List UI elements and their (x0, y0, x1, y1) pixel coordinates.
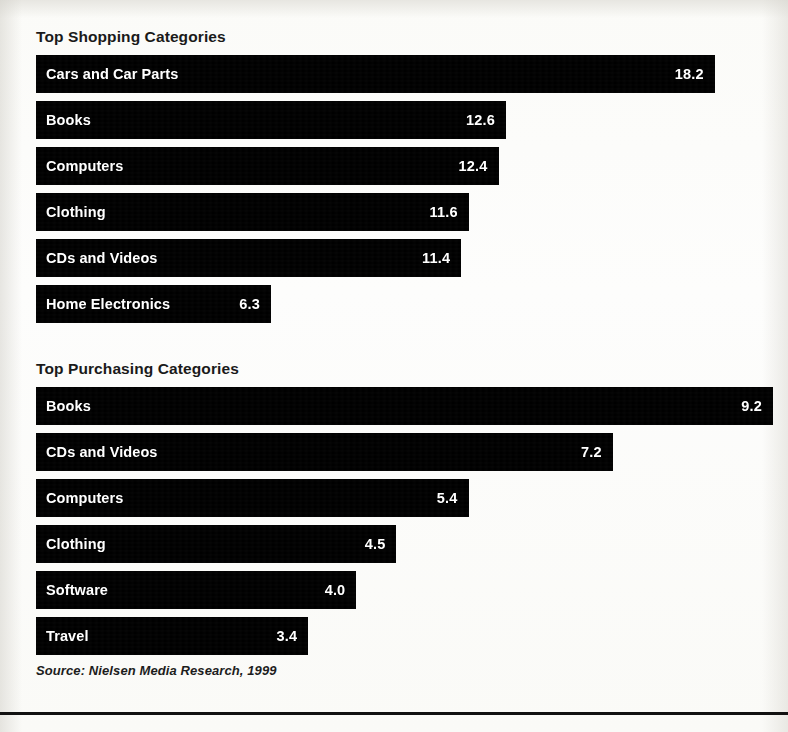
bar-category-label: Travel (46, 628, 89, 644)
bar-value-label: 4.0 (325, 582, 346, 598)
bar-row: Travel3.4 (36, 617, 788, 655)
bar-row: Software4.0 (36, 571, 788, 609)
bar-category-label: Software (46, 582, 108, 598)
bar-row: Books12.6 (36, 101, 788, 139)
bar-row: Computers5.4 (36, 479, 788, 517)
bar-row: Clothing4.5 (36, 525, 788, 563)
bar: Home Electronics6.3 (36, 285, 271, 323)
bar-category-label: CDs and Videos (46, 250, 158, 266)
bar-row: CDs and Videos7.2 (36, 433, 788, 471)
bar-value-label: 11.4 (422, 250, 450, 266)
bar-category-label: Home Electronics (46, 296, 170, 312)
bar: Computers5.4 (36, 479, 469, 517)
bar-category-label: Cars and Car Parts (46, 66, 178, 82)
bar-category-label: Computers (46, 490, 123, 506)
bar: Software4.0 (36, 571, 356, 609)
purchasing-chart-title: Top Purchasing Categories (36, 360, 788, 378)
bar: Cars and Car Parts18.2 (36, 55, 715, 93)
bar-row: CDs and Videos11.4 (36, 239, 788, 277)
chart-page: Top Shopping Categories Cars and Car Par… (0, 0, 788, 732)
bar-category-label: Clothing (46, 536, 106, 552)
bar-value-label: 12.6 (466, 112, 495, 128)
bar-value-label: 18.2 (675, 66, 704, 82)
bar: CDs and Videos7.2 (36, 433, 613, 471)
bar-row: Cars and Car Parts18.2 (36, 55, 788, 93)
bar-category-label: Books (46, 398, 91, 414)
page-edge-shading-top (0, 0, 788, 18)
bar-category-label: Computers (46, 158, 123, 174)
purchasing-bar-list: Books9.2CDs and Videos7.2Computers5.4Clo… (36, 387, 788, 655)
bar-value-label: 3.4 (277, 628, 298, 644)
bar-value-label: 4.5 (365, 536, 386, 552)
shopping-bar-list: Cars and Car Parts18.2Books12.6Computers… (36, 55, 788, 323)
bar: Clothing11.6 (36, 193, 469, 231)
bar-value-label: 5.4 (437, 490, 458, 506)
purchasing-chart: Top Purchasing Categories Books9.2CDs an… (0, 360, 788, 663)
bar-value-label: 12.4 (458, 158, 487, 174)
bar: Clothing4.5 (36, 525, 396, 563)
bar: Books12.6 (36, 101, 506, 139)
bar-category-label: CDs and Videos (46, 444, 158, 460)
bar-row: Books9.2 (36, 387, 788, 425)
shopping-chart-title: Top Shopping Categories (36, 28, 788, 46)
bar: Books9.2 (36, 387, 773, 425)
bar: Travel3.4 (36, 617, 308, 655)
source-note: Source: Nielsen Media Research, 1999 (36, 663, 277, 678)
shopping-chart: Top Shopping Categories Cars and Car Par… (0, 28, 788, 331)
bar-value-label: 6.3 (239, 296, 260, 312)
bar-row: Home Electronics6.3 (36, 285, 788, 323)
bar-category-label: Clothing (46, 204, 106, 220)
footer-divider (0, 712, 788, 715)
bar-row: Computers12.4 (36, 147, 788, 185)
bar: Computers12.4 (36, 147, 499, 185)
bar-value-label: 9.2 (741, 398, 762, 414)
bar-value-label: 7.2 (581, 444, 602, 460)
bar: CDs and Videos11.4 (36, 239, 461, 277)
bar-value-label: 11.6 (429, 204, 457, 220)
bar-row: Clothing11.6 (36, 193, 788, 231)
bar-category-label: Books (46, 112, 91, 128)
